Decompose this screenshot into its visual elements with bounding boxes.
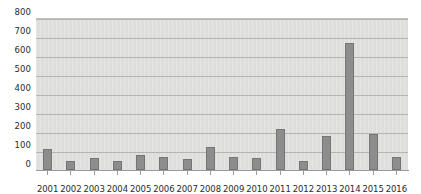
- x-axis-label-slot: 2009: [222, 177, 245, 191]
- y-axis-tick-label: 200: [14, 121, 31, 131]
- x-axis-tick: [59, 171, 82, 175]
- x-axis-tick-mark: [117, 171, 118, 175]
- x-axis-tick-label: 2016: [386, 184, 407, 194]
- x-axis-tick-mark: [396, 171, 397, 175]
- x-axis-ticks: [36, 171, 408, 175]
- x-axis-tick-mark: [47, 171, 48, 175]
- y-axis-tick-label: 600: [14, 45, 31, 55]
- bar-slot: [338, 19, 361, 170]
- x-axis-tick-label: 2015: [363, 184, 384, 194]
- bar-slot: [269, 19, 292, 170]
- y-axis-tick-label: 300: [14, 102, 31, 112]
- y-axis-tick-label: 800: [14, 7, 31, 17]
- bar: [113, 161, 122, 170]
- x-axis-label-slot: 2006: [152, 177, 175, 191]
- bar: [90, 158, 99, 170]
- x-axis-tick-label: 2005: [130, 184, 151, 194]
- x-axis-tick: [176, 171, 199, 175]
- bar-slot: [245, 19, 268, 170]
- x-axis-label-slot: 2011: [269, 177, 292, 191]
- x-axis-tick-mark: [94, 171, 95, 175]
- x-axis-tick: [362, 171, 385, 175]
- x-axis-tick-mark: [70, 171, 71, 175]
- bar-series: [36, 19, 408, 170]
- bar: [345, 43, 354, 170]
- x-axis-tick: [338, 171, 361, 175]
- x-axis-labels: 2001200220032004200520062007200820092010…: [36, 177, 408, 191]
- x-axis-tick-label: 2007: [177, 184, 198, 194]
- x-axis-label-slot: 2004: [106, 177, 129, 191]
- x-axis-tick-label: 2002: [60, 184, 81, 194]
- y-axis-tick-label: 500: [14, 64, 31, 74]
- x-axis-label-slot: 2002: [59, 177, 82, 191]
- y-axis-tick-label: 100: [14, 140, 31, 150]
- x-axis-tick-label: 2006: [153, 184, 174, 194]
- x-axis-tick-mark: [187, 171, 188, 175]
- bar: [392, 157, 401, 170]
- x-axis-tick: [152, 171, 175, 175]
- x-axis-label-slot: 2015: [362, 177, 385, 191]
- x-axis-tick-mark: [373, 171, 374, 175]
- bar-slot: [362, 19, 385, 170]
- x-axis-tick: [199, 171, 222, 175]
- x-axis-label-slot: 2014: [338, 177, 361, 191]
- x-axis-tick-label: 2004: [107, 184, 128, 194]
- x-axis-tick-label: 2001: [37, 184, 58, 194]
- x-axis-label-slot: 2005: [129, 177, 152, 191]
- bar: [299, 161, 308, 171]
- x-axis-tick: [385, 171, 408, 175]
- bar-slot: [152, 19, 175, 170]
- bar: [252, 158, 261, 170]
- x-axis-tick-mark: [163, 171, 164, 175]
- plot-area: [36, 18, 408, 170]
- bar: [229, 157, 238, 170]
- x-axis-tick-label: 2003: [84, 184, 105, 194]
- x-axis-tick: [222, 171, 245, 175]
- bar-slot: [292, 19, 315, 170]
- x-axis-tick: [83, 171, 106, 175]
- x-axis-tick-label: 2014: [339, 184, 360, 194]
- x-axis-tick-label: 2011: [270, 184, 291, 194]
- bar: [276, 129, 285, 170]
- x-axis-label-slot: 2007: [176, 177, 199, 191]
- bar: [206, 147, 215, 170]
- bar-chart: 0100200300400500600700800 20012002200320…: [0, 0, 421, 194]
- x-axis-tick-mark: [303, 171, 304, 175]
- x-axis-tick-mark: [349, 171, 350, 175]
- bar-slot: [315, 19, 338, 170]
- bar-slot: [385, 19, 408, 170]
- x-axis-label-slot: 2010: [245, 177, 268, 191]
- x-axis-tick: [292, 171, 315, 175]
- x-axis-tick-mark: [140, 171, 141, 175]
- x-axis-tick-mark: [326, 171, 327, 175]
- x-axis-label-slot: 2003: [83, 177, 106, 191]
- bar-slot: [36, 19, 59, 170]
- x-axis-tick-label: 2013: [316, 184, 337, 194]
- x-axis-label-slot: 2008: [199, 177, 222, 191]
- y-axis-tick-label: 0: [25, 159, 31, 169]
- x-axis-tick-label: 2012: [293, 184, 314, 194]
- bar-slot: [199, 19, 222, 170]
- x-axis-tick: [245, 171, 268, 175]
- bar: [66, 161, 75, 171]
- x-axis-label-slot: 2013: [315, 177, 338, 191]
- y-axis: 0100200300400500600700800: [0, 12, 34, 172]
- x-axis-tick-mark: [280, 171, 281, 175]
- y-axis-tick-label: 400: [14, 83, 31, 93]
- bar: [183, 159, 192, 170]
- x-axis-label-slot: 2016: [385, 177, 408, 191]
- x-axis-tick: [315, 171, 338, 175]
- x-axis-tick-label: 2008: [200, 184, 221, 194]
- x-axis-label-slot: 2001: [36, 177, 59, 191]
- bar-slot: [222, 19, 245, 170]
- bar-slot: [129, 19, 152, 170]
- bar-slot: [83, 19, 106, 170]
- bar: [159, 157, 168, 170]
- bar: [136, 155, 145, 170]
- y-axis-tick-label: 700: [14, 26, 31, 36]
- x-axis-tick-mark: [256, 171, 257, 175]
- x-axis-tick: [129, 171, 152, 175]
- x-axis-tick-label: 2009: [223, 184, 244, 194]
- bar: [369, 134, 378, 170]
- x-axis-tick: [269, 171, 292, 175]
